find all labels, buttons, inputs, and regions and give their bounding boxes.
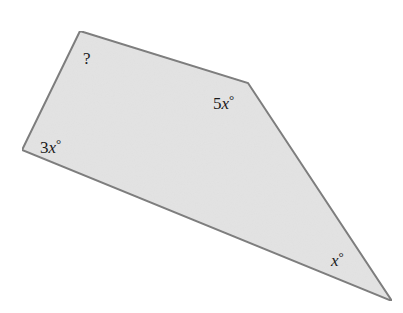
angle-top-value: ? [83, 49, 91, 68]
diagram-canvas: ? 3x° 5x° x° [0, 0, 403, 313]
angle-right-top-coef: 5 [213, 94, 222, 113]
quadrilateral-diagram: ? 3x° 5x° x° [0, 0, 403, 313]
angle-label-top: ? [83, 49, 91, 68]
angle-left-degree: ° [56, 136, 61, 151]
angle-left-coef: 3 [40, 138, 49, 157]
angle-right-top-degree: ° [229, 92, 234, 107]
angle-bottom-right-degree: ° [339, 249, 344, 264]
